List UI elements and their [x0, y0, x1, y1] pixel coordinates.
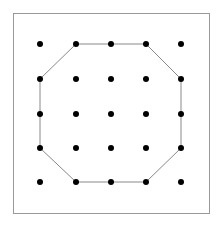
grid-dot — [143, 179, 149, 185]
grid-dot — [37, 111, 43, 117]
grid-dot — [37, 76, 43, 82]
grid-dot — [178, 145, 184, 151]
grid-dot — [73, 76, 79, 82]
grid-dot — [37, 41, 43, 47]
grid-dot — [178, 41, 184, 47]
grid-dot — [178, 111, 184, 117]
geoboard-diagram — [0, 0, 220, 228]
grid-dot — [108, 145, 114, 151]
grid-dot — [108, 179, 114, 185]
grid-dot — [143, 145, 149, 151]
grid-dot — [73, 145, 79, 151]
grid-dot — [73, 179, 79, 185]
grid-dot — [37, 145, 43, 151]
grid-dot — [108, 111, 114, 117]
grid-dot — [108, 76, 114, 82]
grid-dot — [73, 41, 79, 47]
grid-dot — [178, 179, 184, 185]
grid-dot — [143, 41, 149, 47]
grid-dot — [37, 179, 43, 185]
grid-dot — [143, 111, 149, 117]
dot-grid — [37, 41, 184, 185]
grid-dot — [178, 76, 184, 82]
grid-dot — [143, 76, 149, 82]
grid-dot — [108, 41, 114, 47]
grid-dot — [73, 111, 79, 117]
